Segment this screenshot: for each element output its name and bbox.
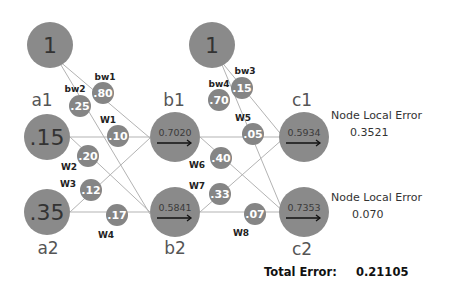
weight-bw4: .70 [208,89,230,111]
layer-label-b2: b2 [164,238,186,258]
weight-value: .17 [107,209,127,222]
weight-w6: .40 [210,147,232,169]
weight-label-w6: W6 [189,160,205,170]
node-b1: 0.7020 [150,112,200,162]
node-value: 0.5841 [158,202,191,213]
weight-value: .05 [243,128,263,141]
weight-value: .10 [108,130,128,143]
weight-label-bw2: bw2 [64,84,85,94]
weight-w2: .20 [77,145,99,167]
weight-label-w4: W4 [98,230,114,240]
node-c1: 0.5934 [279,112,329,162]
weight-label-w5: W5 [235,113,251,123]
layer-label-a2: a2 [37,238,58,258]
neural-network-diagram: 1 a1 .15 .35 a2 1 b1 0.7020 0.5841 b2 c1… [0,0,454,285]
node-bias-a: 1 [27,22,73,68]
weight-value: .40 [211,152,231,165]
weight-value: .80 [93,87,113,100]
node-a2: .35 [24,189,70,235]
weight-label-bw1: bw1 [94,72,115,82]
node-value: 0.7020 [158,127,191,138]
node-value: .35 [30,200,65,225]
node-bias-b: 1 [189,22,235,68]
weight-label-bw4: bw4 [208,79,229,89]
weight-value: .33 [210,188,230,201]
weight-w5: .05 [242,123,264,145]
weight-value: .70 [209,94,229,107]
weight-w8: .07 [244,203,266,225]
weight-label-w1: W1 [100,115,116,125]
node-b2: 0.5841 [150,187,200,237]
weight-w4: .17 [106,204,128,226]
weight-w1: .10 [107,125,129,147]
node-value: 0.7353 [287,202,320,213]
node-local-error-label-c2: Node Local Error [331,191,423,204]
node-local-error-value-c1: 0.3521 [350,126,389,139]
node-a1: .15 [24,114,70,160]
node-c2: 0.7353 [279,187,329,237]
weight-label-w2: W2 [61,162,77,172]
layer-label-c1: c1 [292,90,312,110]
weight-w7: .33 [209,183,231,205]
weight-bw1: .80 [92,82,114,104]
weight-label-w7: W7 [189,181,205,191]
weight-label-bw3: bw3 [234,66,255,76]
node-value: 1 [205,33,219,58]
weight-label-w8: W8 [233,228,249,238]
weight-value: .25 [70,100,90,113]
weight-value: .20 [78,150,98,163]
weight-value: .15 [232,82,252,95]
node-local-error-label-c1: Node Local Error [331,109,423,122]
node-local-error-value-c2: 0.070 [352,208,384,221]
layer-label-a1: a1 [31,90,52,110]
total-error-label: Total Error: [264,265,337,279]
weight-w3: .12 [80,179,102,201]
weight-bw3: .15 [231,77,253,99]
node-value: .15 [30,125,65,150]
layer-label-b1: b1 [163,90,185,110]
node-value: 1 [43,33,57,58]
weight-value: .12 [81,184,101,197]
node-value: 0.5934 [287,127,320,138]
weight-label-w3: W3 [60,179,76,189]
weight-value: .07 [245,208,265,221]
total-error-value: 0.21105 [356,265,408,279]
layer-label-c2: c2 [292,239,312,259]
weight-bw2: .25 [69,95,91,117]
